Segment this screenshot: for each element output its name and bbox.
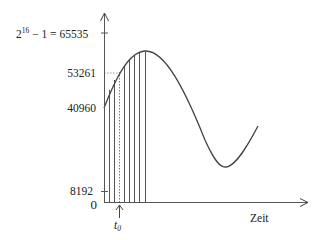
y-label-max-rest: − 1 = 65535: [29, 28, 88, 40]
y-label-zero: 0: [84, 198, 97, 211]
t0-label-sub: 0: [117, 224, 121, 233]
y-label-40960: 40960: [60, 103, 96, 115]
y-label-8192: 8192: [60, 186, 93, 198]
sample-lines: [110, 52, 146, 203]
x-axis-label: Zeit: [250, 213, 269, 225]
t0-label: t0: [114, 220, 121, 233]
y-label-max: 216 − 1 = 65535: [16, 27, 88, 41]
y-label-53261: 53261: [60, 68, 96, 80]
signal-curve: [104, 51, 258, 167]
